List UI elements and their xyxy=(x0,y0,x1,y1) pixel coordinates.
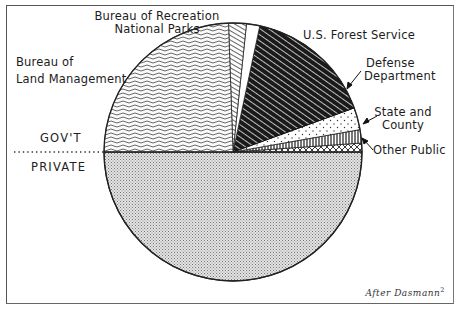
label-land-management: Bureau of Land Management xyxy=(16,56,126,86)
label-national-parks: National Parks xyxy=(72,23,242,36)
source-credit-text: After Dasmann xyxy=(365,288,440,298)
label-defense: Defense Department xyxy=(364,57,436,83)
label-private: PRIVATE xyxy=(31,160,86,174)
label-state-county: State and County xyxy=(374,106,432,132)
label-blm-line2: Land Management xyxy=(16,73,126,86)
label-state-line2: County xyxy=(374,119,432,132)
slice-private xyxy=(104,152,362,281)
arrow-other-public xyxy=(362,138,373,150)
label-govt: GOV'T xyxy=(40,131,82,145)
arrow-defense xyxy=(347,71,361,89)
source-credit-footnote: 2 xyxy=(440,286,445,294)
label-forest-service: U.S. Forest Service xyxy=(303,29,415,42)
slice-land-management xyxy=(104,23,233,152)
label-bureau-recreation: Bureau of Recreation National Parks xyxy=(72,10,242,36)
source-credit: After Dasmann2 xyxy=(365,286,445,298)
label-other-public: Other Public xyxy=(373,144,446,157)
label-blm-line1: Bureau of xyxy=(16,56,126,69)
label-defense-line2: Department xyxy=(364,70,436,83)
